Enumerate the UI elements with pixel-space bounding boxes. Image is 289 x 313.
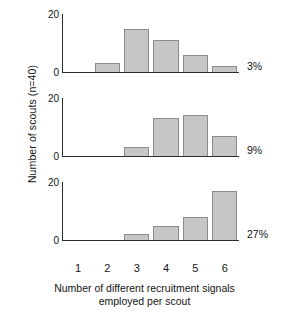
bar xyxy=(183,55,208,72)
chart-panel-3: 20 0 27% xyxy=(44,176,244,260)
x-axis-title-line2: employed per scout xyxy=(8,295,281,308)
bar xyxy=(183,217,208,240)
bar-slot xyxy=(63,98,92,156)
bar-slot xyxy=(93,14,122,72)
x-tick-label: 5 xyxy=(181,262,210,274)
y-axis-title: Number of scouts (n=40) xyxy=(26,24,38,224)
bar-slot xyxy=(181,98,210,156)
bar xyxy=(183,115,208,156)
panel-annotation-3: 27% xyxy=(247,228,268,240)
bar-slot xyxy=(122,182,151,240)
bar-slot xyxy=(63,182,92,240)
chart-panel-1: 20 0 3% xyxy=(44,8,244,92)
bar-group-3 xyxy=(63,182,239,240)
bar-slot xyxy=(63,14,92,72)
bar-slot xyxy=(122,14,151,72)
bar xyxy=(212,136,237,156)
panel-annotation-2: 9% xyxy=(247,144,262,156)
bar-slot xyxy=(93,98,122,156)
y-tick-zero-1: 0 xyxy=(53,68,59,78)
bar-slot xyxy=(210,98,239,156)
x-tick-label: 4 xyxy=(151,262,180,274)
y-tick-top-1: 20 xyxy=(48,10,59,20)
bar-slot xyxy=(151,14,180,72)
bar-slot xyxy=(181,182,210,240)
bar-slot xyxy=(181,14,210,72)
bar xyxy=(124,29,149,73)
histogram-figure: Number of scouts (n=40) 20 0 3% xyxy=(0,0,289,313)
x-tick-label: 2 xyxy=(93,262,122,274)
bar-group-2 xyxy=(63,98,239,156)
panel-stack: 20 0 3% 20 0 xyxy=(44,8,244,260)
bar-slot xyxy=(151,98,180,156)
bar xyxy=(212,191,237,240)
bar-slot xyxy=(93,182,122,240)
bar xyxy=(153,226,178,241)
y-tick-top-3: 20 xyxy=(48,178,59,188)
bar-slot xyxy=(151,182,180,240)
x-tick-label: 3 xyxy=(122,262,151,274)
bar-group-1 xyxy=(63,14,239,72)
x-axis-title-line1: Number of different recruitment signals xyxy=(54,282,235,294)
bar-slot xyxy=(210,14,239,72)
bar-slot xyxy=(210,182,239,240)
bar xyxy=(124,234,149,240)
bar xyxy=(153,118,178,156)
bar-slot xyxy=(122,98,151,156)
bar xyxy=(124,147,149,156)
x-axis-tick-labels: 1 2 3 4 5 6 xyxy=(63,262,239,274)
x-tick-label: 6 xyxy=(210,262,239,274)
chart-panel-2: 20 0 9% xyxy=(44,92,244,176)
bar xyxy=(95,63,120,72)
panel-annotation-1: 3% xyxy=(247,60,262,72)
x-axis-title: Number of different recruitment signals … xyxy=(8,282,281,308)
y-tick-zero-2: 0 xyxy=(53,152,59,162)
bar xyxy=(153,40,178,72)
y-tick-top-2: 20 xyxy=(48,94,59,104)
y-tick-zero-3: 0 xyxy=(53,236,59,246)
x-tick-label: 1 xyxy=(63,262,92,274)
bar xyxy=(212,66,237,72)
